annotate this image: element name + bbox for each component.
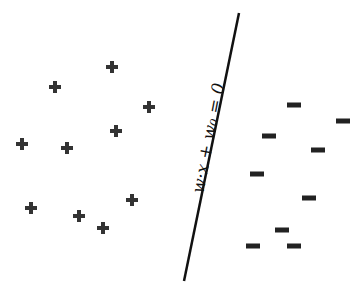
minus-point [275,228,289,233]
minus-point [336,119,350,124]
diagram-svg [0,0,364,297]
plus-point [25,202,37,214]
plus-point [97,222,109,234]
negative-points [246,103,350,249]
diagram-canvas: w·x + w₀ = 0 [0,0,364,297]
minus-point [311,148,325,153]
plus-point [106,61,118,73]
minus-point [262,134,276,139]
minus-point [302,196,316,201]
plus-point [143,101,155,113]
minus-point [246,244,260,249]
positive-points [16,61,155,234]
minus-point [287,244,301,249]
plus-point [61,142,73,154]
minus-point [287,103,301,108]
plus-point [16,138,28,150]
plus-point [126,194,138,206]
plus-point [49,81,61,93]
plus-point [73,210,85,222]
minus-point [250,172,264,177]
plus-point [110,125,122,137]
